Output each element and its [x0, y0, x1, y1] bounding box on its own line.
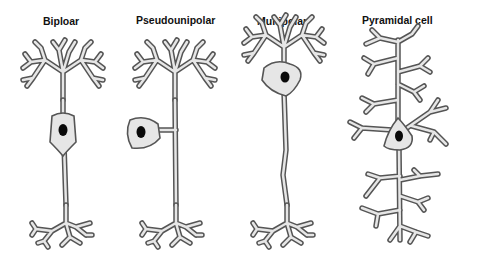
neuron-pseudounipolar — [127, 40, 215, 247]
neuron-multipolar — [244, 15, 324, 247]
neuron-diagram — [0, 0, 479, 253]
neuron-pyramidal — [350, 26, 446, 242]
neuron-bipolar — [23, 40, 103, 247]
